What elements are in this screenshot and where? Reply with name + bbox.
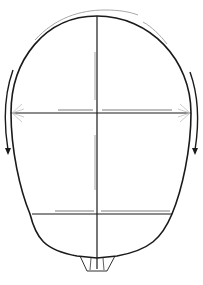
right-arrow-head-icon: [192, 148, 198, 155]
head-outline: [11, 16, 191, 258]
top-arc-guide-left: [35, 10, 138, 40]
head-diagram: [0, 0, 203, 285]
left-arrow-head-icon: [5, 148, 11, 155]
top-arc-guide-right: [143, 22, 167, 44]
head-diagram-svg: [0, 0, 203, 285]
